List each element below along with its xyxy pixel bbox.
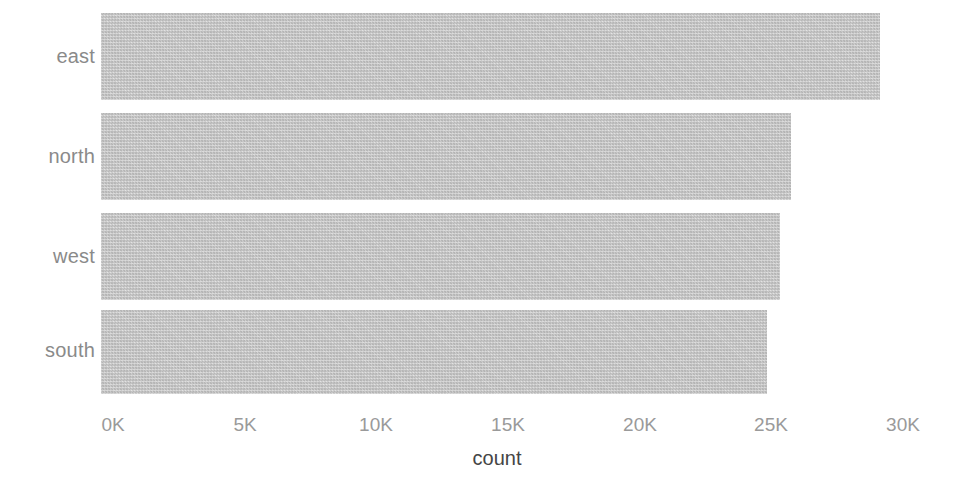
- bar-band: south: [0, 310, 953, 410]
- plot-area: east north west south: [0, 0, 953, 405]
- bar-west[interactable]: [101, 213, 780, 300]
- bar-band: east: [0, 13, 953, 113]
- category-label-west: west: [0, 246, 95, 266]
- x-tick-label: 30K: [886, 414, 920, 436]
- x-axis-title: count: [473, 447, 522, 470]
- category-label-east: east: [0, 46, 95, 66]
- x-axis: 0K 5K 10K 15K 20K 25K 30K count: [0, 405, 953, 485]
- x-tick-label: 10K: [359, 414, 393, 436]
- x-tick-label: 25K: [754, 414, 788, 436]
- bar-north[interactable]: [101, 113, 791, 200]
- x-tick-label: 5K: [233, 414, 256, 436]
- x-tick-label: 20K: [623, 414, 657, 436]
- category-label-south: south: [0, 340, 95, 360]
- category-label-north: north: [0, 146, 95, 166]
- bar-band: west: [0, 213, 953, 313]
- bar-east[interactable]: [101, 13, 880, 100]
- bar-chart: east north west south 0K 5K 10K 15K 20K …: [0, 0, 953, 485]
- bar-south[interactable]: [101, 310, 767, 394]
- bar-band: north: [0, 113, 953, 213]
- x-tick-label: 0K: [101, 414, 124, 436]
- x-tick-label: 15K: [491, 414, 525, 436]
